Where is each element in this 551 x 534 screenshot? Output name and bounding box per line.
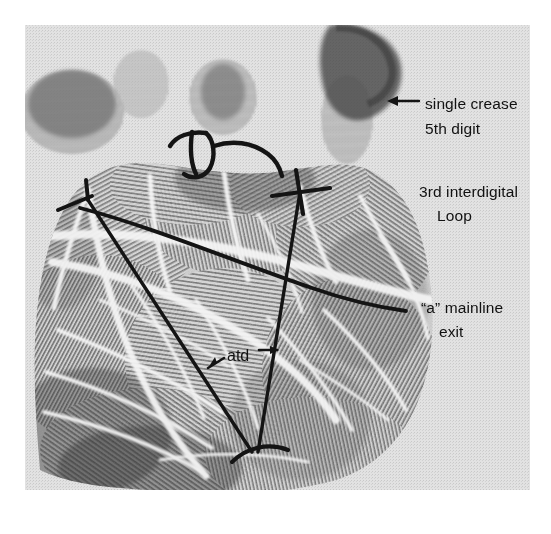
label-loop: Loop (437, 204, 472, 228)
label-fifth-digit: 5th digit (425, 117, 480, 141)
palm-print-canvas: atd (0, 0, 551, 534)
label-a-mainline: “a” mainline (421, 296, 503, 320)
palm-print-figure: atd (0, 0, 551, 534)
label-exit: exit (439, 320, 464, 344)
label-single-crease: single crease (425, 92, 518, 116)
atd-label-text: atd (227, 347, 249, 364)
label-third-interdigital: 3rd interdigital (419, 180, 518, 204)
